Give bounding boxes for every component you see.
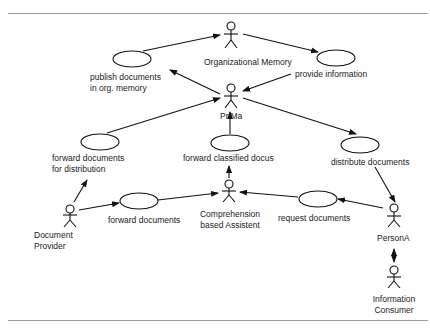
actor-info-consumer-icon[interactable] <box>387 266 401 288</box>
edge-prima-to-publish <box>170 70 220 94</box>
actor-persona-icon[interactable] <box>387 204 401 227</box>
edge-prima-to-distribute <box>243 98 356 134</box>
edge-org-memory-to-provide <box>243 34 318 52</box>
actor-info-consumer-label-2: Consumer <box>364 305 424 316</box>
use-case-publish-ellipse[interactable] <box>113 51 151 67</box>
use-case-fwd-classified-label: forward classified docus <box>183 153 274 164</box>
actor-comprehension-label-1: Comprehension <box>190 209 270 220</box>
use-case-fwd-dist-label-1: forward documents <box>52 153 124 164</box>
edge-provide-to-prima <box>243 74 291 91</box>
edge-distribute-to-persona <box>375 167 395 202</box>
actor-prima-label: PriMa <box>220 111 242 122</box>
use-case-request-label: request documents <box>278 213 350 224</box>
actor-org-memory-icon[interactable] <box>224 22 238 48</box>
use-case-publish-label-1: publish documents <box>90 72 161 83</box>
use-case-fwd-classified-ellipse[interactable] <box>211 135 249 151</box>
use-case-provide-ellipse[interactable] <box>317 50 355 66</box>
use-case-fwd-docs-ellipse[interactable] <box>120 193 158 209</box>
actor-org-memory-label: Organizational Memory <box>204 57 292 68</box>
edge-persona-to-request <box>338 199 383 208</box>
use-case-fwd-dist-label-2: for distribution <box>52 164 105 175</box>
edge-provider-to-fwd-docs <box>79 203 119 210</box>
edge-provider-to-fwd-dist <box>74 180 87 202</box>
use-case-fwd-dist-ellipse[interactable] <box>81 134 119 150</box>
actor-doc-provider-label-2: Provider <box>34 241 66 252</box>
use-case-publish-label-2: in org. memory <box>90 83 147 94</box>
use-case-provide-label: provide information <box>295 69 367 80</box>
use-case-request-ellipse[interactable] <box>299 191 337 207</box>
edge-request-to-comprehension <box>240 192 298 197</box>
actor-prima-icon[interactable] <box>224 84 238 108</box>
actor-info-consumer-label-1: Information <box>364 294 424 305</box>
actor-persona-label: PersonA <box>377 233 410 244</box>
use-case-fwd-docs-label: forward documents <box>108 215 180 226</box>
actor-comprehension-icon[interactable] <box>222 180 236 202</box>
actor-comprehension-label-2: based Assistent <box>190 220 270 231</box>
actor-doc-provider-label-1: Document <box>34 230 73 241</box>
edge-publish-to-org-memory <box>143 35 220 51</box>
edge-fwd-docs-to-comprehension <box>158 193 218 200</box>
use-case-distribute-label: distribute documents <box>331 157 409 168</box>
edge-fwd-dist-to-prima <box>107 98 220 133</box>
use-case-distribute-ellipse[interactable] <box>341 137 379 153</box>
actor-doc-provider-icon[interactable] <box>63 205 77 227</box>
